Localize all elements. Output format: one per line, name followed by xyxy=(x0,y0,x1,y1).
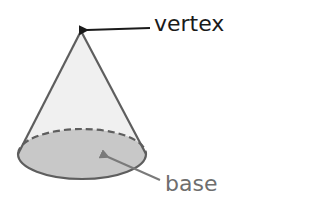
base-label: base xyxy=(165,173,217,195)
vertex-arrow xyxy=(87,28,150,30)
vertex-label: vertex xyxy=(154,13,224,35)
